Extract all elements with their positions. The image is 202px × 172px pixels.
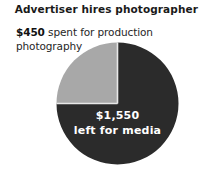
pie-chart-figure: Advertiser hires photographer $450 spent…: [0, 0, 202, 172]
pie-chart: [56, 42, 179, 165]
page-title: Advertiser hires photographer: [0, 3, 198, 15]
production-cost-amount: $450: [16, 26, 45, 38]
pie-slice-production-photography: [57, 43, 118, 104]
pie-chart-svg: [56, 42, 179, 165]
